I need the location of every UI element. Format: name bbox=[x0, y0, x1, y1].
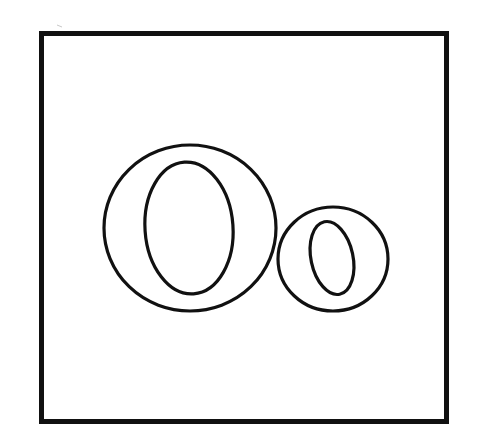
uppercase-o-letter bbox=[104, 145, 276, 311]
card-illustration bbox=[0, 0, 486, 437]
lowercase-o-letter bbox=[278, 207, 388, 311]
uppercase-o-inner-counter bbox=[141, 159, 238, 297]
lowercase-o-inner-counter bbox=[304, 217, 360, 298]
scan-speck bbox=[57, 25, 62, 27]
card-frame bbox=[42, 34, 447, 422]
uppercase-o-outer-outline bbox=[104, 145, 276, 311]
